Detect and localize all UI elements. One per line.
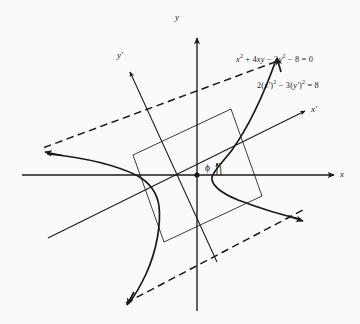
- conic-rotation-diagram: [0, 0, 360, 324]
- figure-page: x2 + 4xy − 2y2 − 8 = 0 2(x′)2 − 3(y′)2 =…: [0, 0, 360, 324]
- hyperbola-left-branch: [48, 154, 159, 303]
- origin-point: [194, 172, 199, 177]
- axis-y-prime: [130, 72, 217, 262]
- hyperbola-right-branch: [212, 60, 300, 219]
- hyperbola-right-upper-arrow: [277, 58, 281, 72]
- asymptote-1: [44, 61, 279, 148]
- hyperbola-right-lower-arrow: [288, 216, 303, 221]
